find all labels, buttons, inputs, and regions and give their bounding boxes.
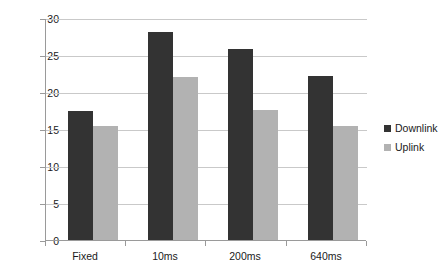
x-axis-tick-mark-3 bbox=[286, 241, 287, 246]
plot-area bbox=[45, 19, 366, 241]
x-axis-tick-label-10ms: 10ms bbox=[120, 250, 210, 262]
bar-chart: 30 25 20 15 10 5 0 bbox=[0, 0, 440, 279]
gridline-30 bbox=[46, 19, 367, 20]
gridline-25 bbox=[46, 56, 367, 57]
bar-uplink-10ms bbox=[173, 77, 198, 240]
legend-label-uplink: Uplink bbox=[395, 142, 424, 153]
legend-item-downlink: Downlink bbox=[384, 119, 440, 138]
bar-downlink-200ms bbox=[228, 49, 253, 240]
x-axis-tick-mark-4 bbox=[366, 241, 367, 246]
bar-uplink-fixed bbox=[93, 126, 118, 240]
x-axis-tick-label-640ms: 640ms bbox=[281, 250, 371, 262]
bar-downlink-fixed bbox=[68, 111, 93, 241]
x-axis-tick-mark-0 bbox=[45, 241, 46, 246]
bar-downlink-640ms bbox=[308, 76, 333, 240]
x-axis-tick-label-fixed: Fixed bbox=[40, 250, 130, 262]
bar-downlink-10ms bbox=[148, 32, 173, 240]
legend-swatch-uplink-icon bbox=[384, 144, 391, 151]
bar-uplink-640ms bbox=[333, 126, 358, 240]
bar-uplink-200ms bbox=[253, 110, 278, 240]
legend-item-uplink: Uplink bbox=[384, 138, 440, 157]
x-axis-tick-label-200ms: 200ms bbox=[200, 250, 290, 262]
chart-legend: Downlink Uplink bbox=[384, 119, 440, 157]
legend-swatch-downlink-icon bbox=[384, 125, 391, 132]
x-axis-tick-mark-2 bbox=[205, 241, 206, 246]
x-axis-tick-mark-1 bbox=[125, 241, 126, 246]
legend-label-downlink: Downlink bbox=[395, 123, 438, 134]
